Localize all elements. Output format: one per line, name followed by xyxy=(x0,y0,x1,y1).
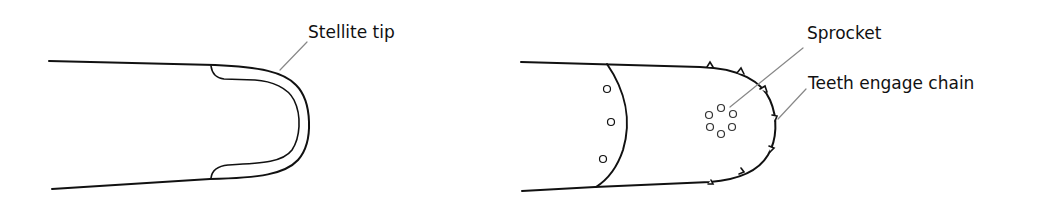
stellite-tip-bar xyxy=(49,42,309,189)
bar-outline xyxy=(49,61,309,189)
tooth-icon xyxy=(772,115,777,121)
teeth-leader-line xyxy=(778,89,806,119)
chain-teeth xyxy=(707,62,777,184)
rivet-hole xyxy=(608,119,615,126)
rivet-holes xyxy=(600,86,615,163)
tooth-icon xyxy=(739,168,744,174)
diagram-canvas xyxy=(0,0,1047,212)
sprocket-leader-line xyxy=(730,48,803,107)
sprocket-label: Sprocket xyxy=(807,25,881,42)
sprocket-nose-bar xyxy=(521,48,806,191)
tooth-icon xyxy=(737,68,744,74)
rivet-hole xyxy=(600,156,607,163)
bar-outline xyxy=(521,62,775,191)
stellite-tip-label: Stellite tip xyxy=(308,24,395,41)
stellite-inner-boundary xyxy=(211,66,299,178)
rivet-hole xyxy=(604,86,611,93)
tooth-icon xyxy=(707,62,713,67)
sprocket-icon xyxy=(706,105,737,138)
stellite-leader-line xyxy=(280,42,307,70)
teeth-engage-chain-label: Teeth engage chain xyxy=(808,75,974,92)
